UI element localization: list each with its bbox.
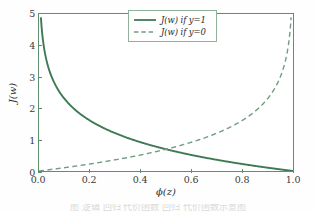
y-tick-mark: [38, 77, 42, 78]
legend: J(w) if y=1 J(w) if y=0: [128, 10, 217, 42]
legend-dashed-line-sample: [133, 27, 157, 37]
legend-entry-y0: J(w) if y=0: [133, 26, 212, 38]
x-tick-label: 0.4: [133, 174, 148, 185]
y-tick-mark: [38, 45, 42, 46]
x-tick-label: 0.2: [82, 174, 97, 185]
y-tick-mark: [38, 13, 42, 14]
figure-container: 0.0 0.2 0.4 0.6 0.8 1.0 0 1 2 3 4 5 ϕ(z)…: [0, 0, 316, 212]
x-tick-label: 0.8: [235, 174, 250, 185]
legend-label-y1: J(w) if y=1: [161, 15, 206, 25]
y-tick-label: 4: [26, 40, 35, 51]
legend-label-y0: J(w) if y=0: [161, 27, 206, 37]
y-tick-label: 0: [26, 167, 35, 178]
x-tick-label: 0.6: [184, 174, 199, 185]
x-tick-label: 1.0: [286, 174, 301, 185]
y-axis-title: J(w): [7, 83, 18, 103]
y-tick-label: 3: [26, 72, 35, 83]
y-tick-label: 5: [26, 8, 35, 19]
x-tick-mark: [140, 169, 141, 173]
x-tick-mark: [242, 169, 243, 173]
y-tick-mark: [38, 172, 42, 173]
caption-text: 图 逻辑 回归 代价函数 回归 代价函数示意图: [70, 204, 246, 212]
x-tick-mark: [293, 169, 294, 173]
x-axis-title: ϕ(z): [156, 186, 176, 197]
x-tick-mark: [89, 169, 90, 173]
y-tick-mark: [38, 140, 42, 141]
y-tick-mark: [38, 108, 42, 109]
y-tick-label: 2: [26, 103, 35, 114]
legend-solid-line-sample: [133, 15, 157, 25]
y-tick-label: 1: [26, 135, 35, 146]
caption-strip: 图 逻辑 回归 代价函数 回归 代价函数示意图: [0, 204, 316, 212]
x-tick-mark: [191, 169, 192, 173]
legend-entry-y1: J(w) if y=1: [133, 14, 212, 26]
